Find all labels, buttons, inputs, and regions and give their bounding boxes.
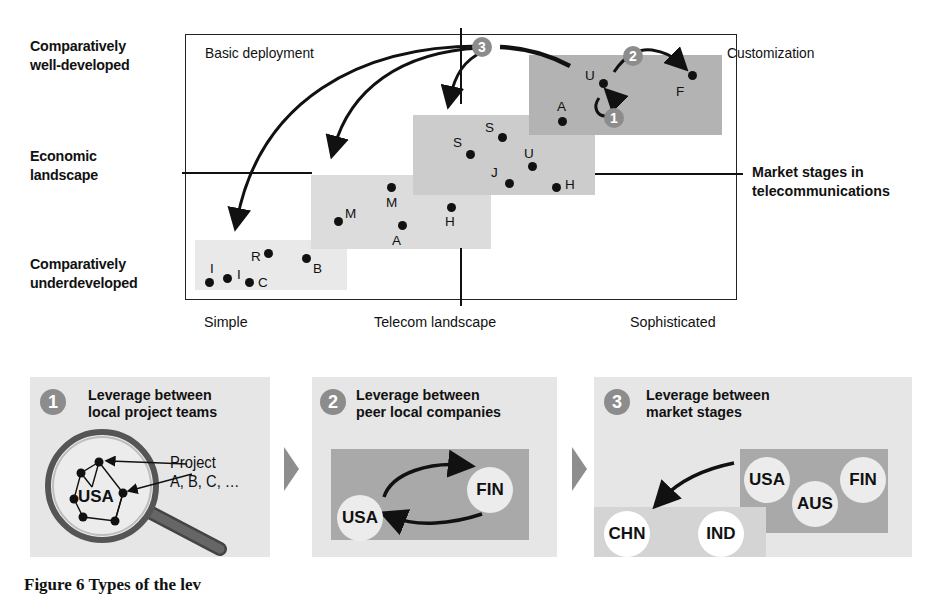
point-label: J	[491, 166, 498, 180]
badge-2: 2	[623, 46, 643, 66]
arrow-to-stage-3	[450, 52, 482, 98]
point-label: S	[485, 121, 494, 135]
point-label: M	[345, 207, 356, 221]
point-h	[447, 203, 456, 212]
circle-usa: USA	[744, 457, 790, 503]
point-label: U	[524, 147, 534, 161]
point-s-1	[466, 150, 475, 159]
point-label: S	[453, 136, 462, 150]
point-i-1	[205, 278, 214, 287]
point-label: A	[392, 234, 401, 248]
point-b	[302, 254, 311, 263]
circle-fin: FIN	[840, 457, 886, 503]
badge-1: 1	[604, 108, 624, 128]
point-label: B	[313, 262, 322, 276]
point-m-2	[387, 183, 396, 192]
point-label: U	[585, 69, 595, 83]
point-u	[528, 162, 537, 171]
point-label: F	[676, 85, 684, 99]
circle-chn: CHN	[604, 511, 650, 557]
point-label: M	[386, 196, 397, 210]
point-label: I	[210, 262, 214, 276]
panel-peer-local-companies: 2 Leverage between peer local companies …	[312, 377, 557, 557]
arrow-from-stage-4	[500, 47, 570, 66]
chevron-right-icon	[284, 447, 299, 491]
arrow-to-stage-2	[334, 48, 480, 148]
point-r	[264, 249, 273, 258]
point-label: A	[557, 100, 566, 114]
point-label: I	[237, 268, 241, 282]
point-s-2	[498, 133, 507, 142]
point-h	[552, 183, 561, 192]
point-c	[245, 278, 254, 287]
arrow-to-stage-1	[237, 46, 480, 220]
badge-3: 3	[472, 37, 492, 57]
project-annotation: Project A, B, C, …	[170, 453, 240, 491]
point-a	[398, 221, 407, 230]
circle-fin: FIN	[467, 467, 513, 513]
point-m-1	[334, 217, 343, 226]
point-label: H	[565, 178, 575, 192]
circle-usa: USA	[337, 495, 383, 541]
point-u	[599, 79, 608, 88]
figure-caption: Figure 6 Types of the lev	[24, 575, 201, 595]
panel-1-usa-label: USA	[78, 487, 114, 507]
point-a	[558, 117, 567, 126]
chevron-right-icon	[572, 447, 587, 491]
point-label: C	[258, 276, 268, 290]
loop-left	[596, 98, 605, 116]
panel-market-stages: 3 Leverage between market stages USA AUS…	[594, 377, 912, 557]
panel-local-project-teams: 1 Leverage between local project teams U…	[30, 377, 270, 557]
project-annotation-line1: Project	[170, 453, 240, 472]
point-i-2	[223, 274, 232, 283]
point-f	[688, 71, 697, 80]
point-j	[505, 179, 514, 188]
point-label: H	[445, 215, 455, 229]
point-label: R	[251, 250, 261, 264]
circle-aus: AUS	[792, 481, 838, 527]
circle-ind: IND	[698, 511, 744, 557]
project-annotation-line2: A, B, C, …	[170, 472, 240, 491]
